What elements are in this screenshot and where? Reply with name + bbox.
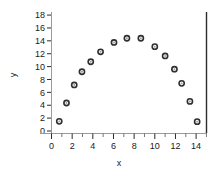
data-point bbox=[57, 119, 62, 124]
data-point-center bbox=[140, 37, 142, 39]
data-point-center bbox=[66, 102, 68, 104]
y-tick-label: 8 bbox=[40, 75, 45, 85]
data-point-center bbox=[154, 46, 156, 48]
data-point bbox=[152, 44, 157, 49]
y-tick-label: 18 bbox=[35, 10, 45, 20]
data-point-center bbox=[90, 61, 92, 63]
data-point-center bbox=[196, 121, 198, 123]
x-tick-label: 2 bbox=[70, 141, 75, 151]
data-point bbox=[72, 82, 77, 87]
y-tick-label: 16 bbox=[35, 23, 45, 33]
scatter-plot-screenshot: 024681012141618 02468101214 x y bbox=[0, 0, 222, 173]
data-point-center bbox=[164, 55, 166, 57]
y-axis-title: y bbox=[8, 72, 18, 77]
y-tick-label: 6 bbox=[40, 88, 45, 98]
data-point-center bbox=[58, 120, 60, 122]
y-tick-label: 2 bbox=[40, 113, 45, 123]
data-point-center bbox=[173, 68, 175, 70]
y-tick-label: 14 bbox=[35, 36, 45, 46]
data-point-center bbox=[100, 51, 102, 53]
data-point bbox=[98, 49, 103, 54]
y-tick-label: 4 bbox=[40, 100, 45, 110]
x-tick-label: 6 bbox=[111, 141, 116, 151]
data-point bbox=[179, 81, 184, 86]
y-tick-label: 0 bbox=[40, 126, 45, 136]
data-point bbox=[172, 67, 177, 72]
x-tick-label: 4 bbox=[90, 141, 95, 151]
x-tick-label: 14 bbox=[191, 141, 201, 151]
data-point bbox=[88, 59, 93, 64]
data-point-center bbox=[181, 82, 183, 84]
data-point bbox=[138, 36, 143, 41]
data-point bbox=[187, 99, 192, 104]
data-point bbox=[124, 36, 129, 41]
data-point bbox=[163, 53, 168, 58]
x-tick-label: 8 bbox=[132, 141, 137, 151]
x-tick-label: 12 bbox=[170, 141, 180, 151]
x-tick-label: 10 bbox=[150, 141, 160, 151]
y-tick-label: 12 bbox=[35, 49, 45, 59]
data-point-center bbox=[126, 37, 128, 39]
y-tick-label: 10 bbox=[35, 62, 45, 72]
data-point-center bbox=[189, 100, 191, 102]
data-point bbox=[111, 40, 116, 45]
data-point bbox=[195, 119, 200, 124]
x-tick-label: 0 bbox=[49, 141, 54, 151]
data-point bbox=[64, 100, 69, 105]
data-point-center bbox=[73, 84, 75, 86]
data-point bbox=[79, 69, 84, 74]
data-point-center bbox=[81, 71, 83, 73]
data-point-center bbox=[113, 42, 115, 44]
x-axis-title: x bbox=[117, 158, 122, 168]
scatter-chart: 024681012141618 02468101214 x y bbox=[0, 0, 222, 173]
